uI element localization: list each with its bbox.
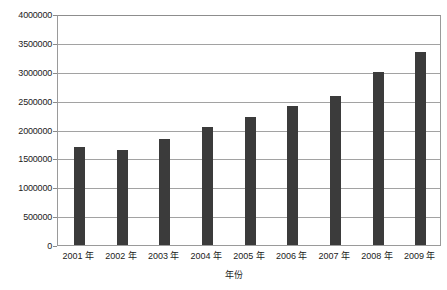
bar bbox=[330, 96, 341, 245]
bar bbox=[74, 147, 85, 245]
y-axis-tick-label: 3500000 bbox=[18, 39, 52, 49]
plot-area bbox=[57, 15, 441, 246]
bar bbox=[202, 127, 213, 245]
bar bbox=[373, 72, 384, 245]
x-axis-title-text: 年份 bbox=[225, 268, 243, 281]
x-axis-tick-label: 2009 年 bbox=[390, 251, 447, 262]
y-axis-tick-label: 2000000 bbox=[18, 126, 52, 136]
gridline bbox=[58, 44, 440, 45]
y-axis-tick-label: 1500000 bbox=[18, 154, 52, 164]
y-axis-tick-label: 2500000 bbox=[18, 97, 52, 107]
y-axis-tick-label: 3000000 bbox=[18, 68, 52, 78]
bar bbox=[117, 150, 128, 245]
bar bbox=[287, 106, 298, 245]
bar bbox=[245, 117, 256, 245]
bar bbox=[159, 139, 170, 245]
x-axis-title: 年份 bbox=[0, 268, 447, 281]
y-axis-tick-mark bbox=[53, 246, 57, 247]
bar-chart: 0500000100000015000002000000250000030000… bbox=[0, 0, 447, 290]
y-axis-tick-label: 0 bbox=[47, 241, 52, 251]
y-axis-tick-label: 4000000 bbox=[18, 10, 52, 20]
y-axis-tick-label: 1000000 bbox=[18, 183, 52, 193]
bar bbox=[415, 52, 426, 245]
y-axis-tick-label: 500000 bbox=[23, 212, 52, 222]
